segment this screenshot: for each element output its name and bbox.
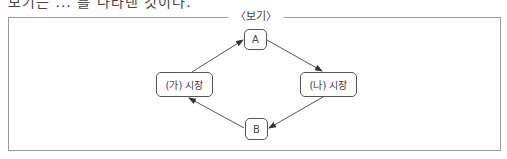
node-ga-market: (가) 시장 [156,72,213,97]
node-na-market-label: (나) 시장 [310,77,348,92]
node-b: B [245,118,268,140]
node-ga-market-label: (가) 시장 [166,77,204,92]
node-b-label: B [253,124,260,135]
node-a: A [244,29,267,50]
arrow-ga-to-a [192,40,243,72]
arrow-a-to-na [267,40,322,71]
arrow-b-to-ga [189,98,244,128]
arrow-na-to-b [269,97,323,128]
node-a-label: A [252,34,259,45]
node-na-market: (나) 시장 [300,72,357,97]
